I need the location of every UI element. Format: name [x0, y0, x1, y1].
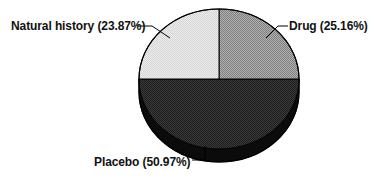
pie-label-placebo: Placebo (50.97%) [94, 155, 190, 169]
pie-chart: Natural history (23.87%) Drug (25.16%) P… [0, 0, 376, 181]
pie-label-natural-history: Natural history (23.87%) [11, 19, 145, 33]
pie-slice-natural-history [139, 9, 219, 79]
pie-label-drug: Drug (25.16%) [289, 19, 368, 33]
pie-slice-drug [219, 9, 299, 79]
